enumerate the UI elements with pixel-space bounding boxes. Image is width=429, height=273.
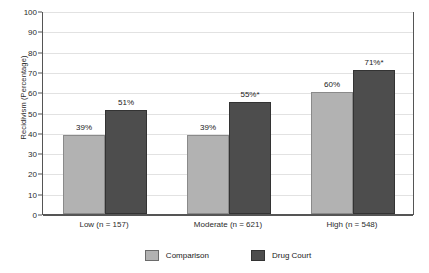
bar-value-label: 71%*: [364, 58, 383, 67]
y-tick-label: 10: [28, 190, 37, 199]
gridline: [43, 215, 413, 216]
y-tick-label: 100: [24, 8, 37, 17]
legend-swatch-icon: [145, 250, 159, 261]
bar-comparison: 39%: [63, 135, 105, 214]
chart-legend: ComparisonDrug Court: [42, 246, 414, 264]
legend-label: Comparison: [166, 251, 209, 260]
bar-group: 60%71%*: [311, 13, 395, 214]
y-tick-label: 90: [28, 28, 37, 37]
recidivism-bar-chart: Recidivism (Percentage) 1009080706050403…: [0, 0, 429, 273]
y-tick-label: 30: [28, 150, 37, 159]
y-tick-label: 80: [28, 48, 37, 57]
y-tick-label: 0: [33, 211, 37, 220]
bar-groups: 39%51%39%55%*60%71%*: [43, 13, 413, 214]
legend-label: Drug Court: [272, 251, 311, 260]
y-tick-label: 20: [28, 170, 37, 179]
bar-value-label: 55%*: [240, 90, 259, 99]
bar-comparison: 60%: [311, 92, 353, 214]
y-tick-label: 60: [28, 89, 37, 98]
bar-value-label: 39%: [76, 123, 92, 132]
legend-item[interactable]: Drug Court: [251, 250, 311, 261]
bar-drug-court: 71%*: [353, 70, 395, 214]
bar-value-label: 39%: [200, 123, 216, 132]
y-axis-tick-labels: 1009080706050403020100: [0, 12, 42, 215]
bar-group: 39%55%*: [187, 13, 271, 214]
bar-value-label: 51%: [118, 98, 134, 107]
bar-drug-court: 55%*: [229, 102, 271, 214]
x-tick-label: Moderate (n = 621): [194, 220, 262, 229]
y-tick-label: 50: [28, 109, 37, 118]
legend-item[interactable]: Comparison: [145, 250, 209, 261]
x-tick-label: High (n = 548): [327, 220, 378, 229]
bar-comparison: 39%: [187, 135, 229, 214]
plot-area: 39%51%39%55%*60%71%*: [42, 12, 414, 215]
y-tick-label: 40: [28, 129, 37, 138]
legend-swatch-icon: [251, 250, 265, 261]
bar-group: 39%51%: [63, 13, 147, 214]
y-tick-label: 70: [28, 68, 37, 77]
x-axis-tick-labels: Low (n = 157)Moderate (n = 621)High (n =…: [42, 220, 414, 236]
bar-drug-court: 51%: [105, 110, 147, 214]
x-tick-label: Low (n = 157): [79, 220, 128, 229]
bar-value-label: 60%: [324, 80, 340, 89]
